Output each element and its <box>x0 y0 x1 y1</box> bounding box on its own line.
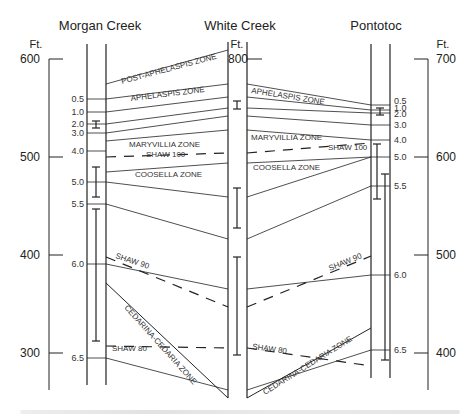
zone-shaw80-left: SHAW 80 <box>112 344 147 353</box>
marker-0.5: 0.5 <box>71 94 84 104</box>
morgan-marker-labels: 0.5 1.0 2.0 3.0 4.0 5.0 5.5 6.0 6.5 <box>71 94 84 363</box>
zone-labels: POST-APHELASPIS ZONE APHELASPIS ZONE APH… <box>112 52 368 397</box>
right-tick-600: 600 <box>436 150 456 164</box>
zone-maryvillia-right: MARYVILLIA ZONE <box>251 133 322 142</box>
marker-6.5: 6.5 <box>71 353 84 363</box>
marker-5.5: 5.5 <box>71 199 84 209</box>
right-tick-700: 700 <box>436 52 456 66</box>
marker-6.5: 6.5 <box>394 345 407 355</box>
left-tick-500: 500 <box>20 150 40 164</box>
column-morgan-creek <box>87 44 106 385</box>
zone-shaw90-right: SHAW 90 <box>327 251 363 273</box>
marker-3.0: 3.0 <box>394 120 407 130</box>
section-title-white-creek: White Creek <box>204 18 276 33</box>
marker-4.0: 4.0 <box>71 146 84 156</box>
marker-6.0: 6.0 <box>71 259 84 269</box>
left-tick-400: 400 <box>20 248 40 262</box>
left-scale-unit: Ft. <box>30 38 43 50</box>
zone-shaw100-left: SHAW 100 <box>146 150 186 159</box>
figure-caption-illegible <box>20 410 460 414</box>
pontotoc-marker-labels: 0.5 1.0 2.0 3.0 4.0 5.0 5.5 6.0 6.5 <box>394 96 407 355</box>
zone-aphelaspis-right: APHELASPIS ZONE <box>251 86 326 107</box>
zone-coosella-right: COOSELLA ZONE <box>253 163 320 172</box>
white-scale-unit: Ft. <box>231 38 244 50</box>
section-title-morgan-creek: Morgan Creek <box>59 18 142 33</box>
zone-aphelaspis-left: APHELASPIS ZONE <box>130 85 205 103</box>
marker-6.0: 6.0 <box>394 270 407 280</box>
zone-shaw90-left: SHAW 90 <box>114 251 150 270</box>
right-tick-500: 500 <box>436 248 456 262</box>
marker-5.5: 5.5 <box>394 181 407 191</box>
marker-5.0: 5.0 <box>394 152 407 162</box>
marker-2.0: 2.0 <box>394 109 407 119</box>
section-title-pontotoc: Pontotoc <box>350 18 402 33</box>
left-tick-600: 600 <box>20 52 40 66</box>
marker-5.0: 5.0 <box>71 177 84 187</box>
stratigraphic-correlation-diagram: Morgan Creek White Creek Pontotoc Ft. 60… <box>0 0 473 420</box>
marker-3.0: 3.0 <box>71 128 84 138</box>
white-tick-800: 800 <box>228 52 248 66</box>
zone-maryvillia-left: MARYVILLIA ZONE <box>129 140 200 149</box>
zone-shaw80-right: SHAW 80 <box>252 342 288 356</box>
marker-1.0: 1.0 <box>71 107 84 117</box>
right-tick-400: 400 <box>436 346 456 360</box>
zone-cedarina-right: CEDARINA-CEDARIA ZONE <box>261 334 354 397</box>
marker-4.0: 4.0 <box>394 135 407 145</box>
left-tick-300: 300 <box>20 346 40 360</box>
right-depth-scale: Ft. 700 600 500 400 <box>414 38 456 390</box>
zone-shaw100-right: SHAW 100 <box>328 143 368 152</box>
zone-post-aphelaspis: POST-APHELASPIS ZONE <box>120 52 217 86</box>
left-depth-scale: Ft. 600 500 400 300 <box>20 38 63 390</box>
column-pontotoc <box>371 44 390 378</box>
zone-coosella-left: COOSELLA ZONE <box>135 170 202 179</box>
right-scale-unit: Ft. <box>437 38 450 50</box>
